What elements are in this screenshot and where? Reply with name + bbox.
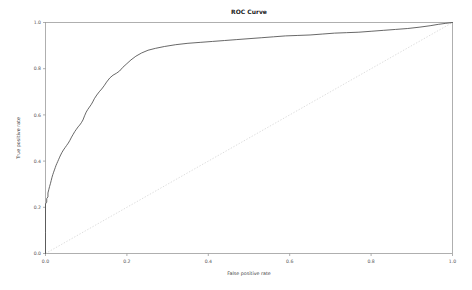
x-tick-label: 0.4 xyxy=(205,259,212,264)
y-tick-label: 0.4 xyxy=(34,159,41,164)
x-tick-label: 0.2 xyxy=(123,259,130,264)
roc-chart-figure: ROC Curve 0.00.20.40.60.81.0 0.00.20.40.… xyxy=(0,0,472,290)
x-tick-label: 0.6 xyxy=(286,259,293,264)
y-tick-label: 0.0 xyxy=(34,251,41,256)
x-tick-label: 1.0 xyxy=(449,259,456,264)
y-tick-label: 0.2 xyxy=(34,205,41,210)
y-axis-title: True positive rate xyxy=(16,117,21,160)
x-axis-title: False positive rate xyxy=(227,271,271,276)
chart-canvas: ROC Curve 0.00.20.40.60.81.0 0.00.20.40.… xyxy=(0,0,472,290)
y-tick-label: 0.8 xyxy=(34,66,41,71)
y-tick-label: 0.6 xyxy=(34,113,41,118)
chart-title: ROC Curve xyxy=(231,8,267,15)
y-tick-label: 1.0 xyxy=(34,20,41,25)
x-tick-label: 0.8 xyxy=(367,259,374,264)
x-tick-label: 0.0 xyxy=(42,259,49,264)
